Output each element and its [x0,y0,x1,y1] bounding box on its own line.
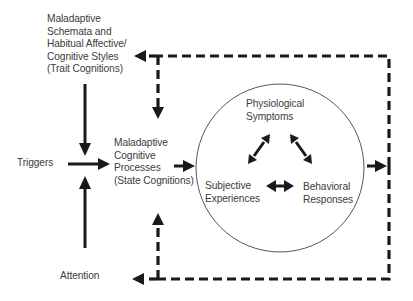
node-subjective-experiences: Subjective Experiences [205,180,260,205]
node-line: Schemata and [47,26,126,39]
arrowhead-up-to-state [152,213,164,225]
node-line: Cognitive [114,150,194,163]
node-line: Attention [60,270,99,283]
node-line: Maladaptive [114,137,194,150]
arrow-physiological-behavioral [290,134,312,164]
arrow-attention-to-state [79,176,91,248]
node-physiological-symptoms: Physiological Symptoms [246,98,304,123]
node-attention: Attention [60,270,99,283]
node-line: Behavioral [303,181,353,194]
node-line: Experiences [205,193,260,206]
node-line: (Trait Cognitions) [47,63,126,76]
node-state-cognitions: Maladaptive Cognitive Processes (State C… [114,137,194,187]
node-line: Responses [303,194,353,207]
node-line: Subjective [205,180,260,193]
node-line: Symptoms [246,111,304,124]
arrowhead-to-attention [132,273,144,285]
node-line: (State Cognitions) [114,175,194,188]
node-behavioral-responses: Behavioral Responses [303,181,353,206]
node-line: Processes [114,162,194,175]
node-line: Habitual Affective/ [47,38,126,51]
arrow-circle-to-feedback [367,160,387,172]
arrowhead-down-to-state [152,107,164,119]
arrow-triggers-to-state [68,158,110,170]
arrowhead-to-trait [134,50,146,62]
node-line: Cognitive Styles [47,51,126,64]
arrow-subjective-behavioral [266,180,294,192]
node-trait-cognitions: Maladaptive Schemata and Habitual Affect… [47,13,126,76]
node-line: Maladaptive [47,13,126,26]
arrow-physiological-subjective [248,134,270,164]
node-line: Physiological [246,98,304,111]
arrow-trait-to-state [79,84,91,156]
node-triggers: Triggers [17,157,53,170]
node-line: Triggers [17,157,53,170]
